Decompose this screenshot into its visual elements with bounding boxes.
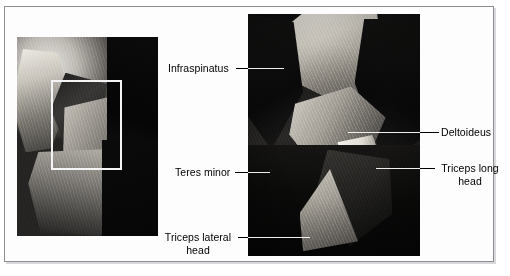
- label-triceps-long-head-line2: head: [458, 175, 482, 187]
- leader-line-infraspinatus-on-photo: [248, 68, 284, 69]
- label-triceps-long-head-line1: Triceps long: [441, 162, 498, 174]
- leader-line-deltoideus-on-photo: [348, 132, 420, 133]
- label-triceps-lateral-head-line1: Triceps lateral: [165, 231, 231, 243]
- anatomy-figure: Infraspinatus Teres minor Triceps latera…: [0, 0, 510, 276]
- detail-photo[interactable]: [248, 14, 420, 256]
- detail-vignette: [248, 14, 420, 256]
- leader-line-infraspinatus: [236, 68, 248, 69]
- label-deltoideus: Deltoideus: [441, 126, 491, 139]
- leader-line-triceps-lateral-head: [238, 237, 248, 238]
- region-of-interest-rectangle[interactable]: [51, 80, 122, 170]
- leader-line-deltoideus: [420, 132, 439, 133]
- overview-photo[interactable]: [17, 37, 158, 236]
- leader-line-triceps-long-head: [420, 168, 435, 169]
- leader-line-teres-minor-on-photo: [248, 172, 270, 173]
- leader-line-triceps-long-head-on-photo: [376, 168, 420, 169]
- label-triceps-lateral-head: Triceps lateral head: [161, 231, 235, 256]
- label-infraspinatus: Infraspinatus: [168, 62, 229, 75]
- label-teres-minor: Teres minor: [175, 166, 230, 179]
- leader-line-teres-minor: [235, 172, 248, 173]
- label-triceps-long-head: Triceps long head: [437, 162, 503, 187]
- leader-line-triceps-lateral-head-on-photo: [248, 237, 310, 238]
- label-triceps-lateral-head-line2: head: [186, 244, 210, 256]
